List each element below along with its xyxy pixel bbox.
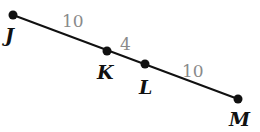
point-j [9,11,18,20]
length-jk: 10 [62,11,84,31]
point-k [103,47,112,56]
point-m [234,95,243,104]
label-k: K [96,61,115,83]
line-jm [13,15,238,99]
length-kl: 4 [120,34,131,54]
label-j: J [2,24,16,46]
label-l: L [138,76,152,98]
segment-diagram: 10 4 10 J K L M [0,0,260,132]
point-l [141,60,150,69]
length-lm: 10 [182,61,204,81]
label-m: M [228,108,251,130]
